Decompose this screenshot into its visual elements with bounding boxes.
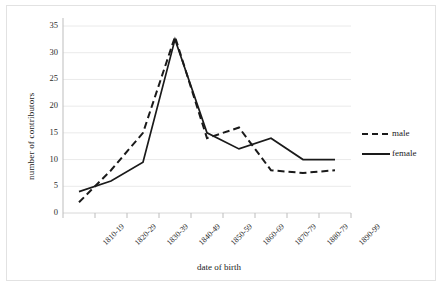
y-tick-label: 25: [38, 73, 58, 83]
y-tick-label: 0: [38, 207, 58, 217]
y-tick-label: 35: [38, 20, 58, 30]
y-tick-label: 15: [38, 127, 58, 137]
legend-marks: [362, 134, 390, 154]
y-axis-title: number of contributors: [26, 93, 36, 180]
y-tick-label: 20: [38, 100, 58, 110]
series-lines: [79, 37, 335, 203]
legend-label-male: male: [392, 128, 410, 138]
series-line-female: [79, 39, 335, 191]
x-tick-marks: [63, 213, 351, 218]
gridlines: [63, 26, 351, 213]
y-tick-label: 30: [38, 47, 58, 57]
line-chart: [0, 0, 444, 289]
y-tick-label: 10: [38, 154, 58, 164]
y-tick-label: 5: [38, 180, 58, 190]
legend-label-female: female: [392, 148, 416, 158]
x-axis-title: date of birth: [197, 262, 241, 272]
